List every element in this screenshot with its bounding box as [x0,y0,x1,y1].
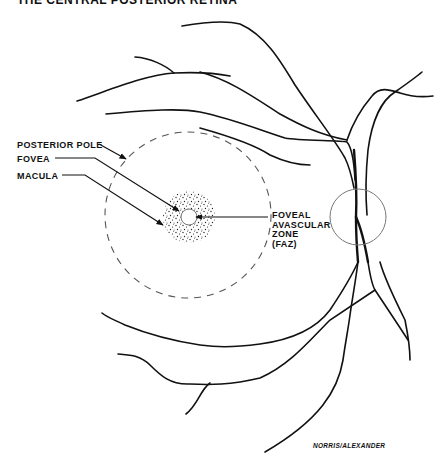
faz-label: FOVEAL AVASCULAR ZONE (FAZ) [272,211,331,249]
fovea-leader [55,158,179,211]
superior-vessels [77,22,433,215]
posterior-pole-leader [99,144,126,159]
fovea-label: FOVEA [17,154,50,164]
foveal-avascular-zone [181,209,197,225]
faz-label-line4: (FAZ) [272,240,331,250]
macula-label: MACULA [17,171,58,181]
optic-disc [330,189,386,245]
artist-credit: NORRIS/ALEXANDER [313,442,385,449]
macula-leader [62,175,163,225]
leader-lines [55,144,268,225]
retina-diagram: THE CENTRAL POSTERIOR RETINA [0,0,446,466]
inferior-vessels [102,262,410,452]
posterior-pole-label: POSTERIOR POLE [17,140,103,150]
retina-illustration [0,0,446,466]
